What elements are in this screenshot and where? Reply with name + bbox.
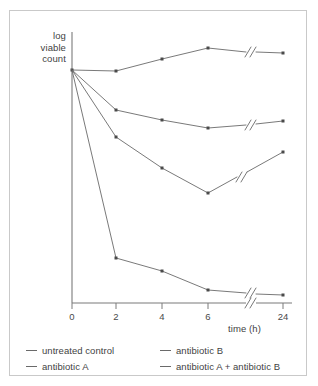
x-tick-label-0: 0 bbox=[69, 311, 74, 322]
series-antibiotic-a-plus-b bbox=[72, 70, 285, 195]
legend-label: antibiotic B bbox=[176, 345, 223, 356]
series-break-icon-antibiotic-a bbox=[245, 288, 256, 298]
legend-line-icon bbox=[26, 366, 37, 367]
chart-page: 0 2 4 6 24 bbox=[0, 0, 318, 386]
x-tick-label-2: 2 bbox=[113, 311, 118, 322]
legend-item-antibiotic-b: antibiotic B bbox=[160, 345, 298, 356]
chart-legend: untreated control antibiotic B antibioti… bbox=[26, 342, 298, 374]
y-axis-label-line-1: log bbox=[24, 30, 66, 42]
y-axis-label: log viable count bbox=[24, 30, 66, 65]
legend-item-untreated-control: untreated control bbox=[26, 345, 160, 356]
x-axis-break-icon bbox=[245, 298, 256, 308]
series-break-icon-antibiotic-a-plus-b bbox=[236, 172, 247, 182]
x-tick-label-4: 4 bbox=[159, 311, 164, 322]
legend-line-icon bbox=[160, 350, 171, 351]
x-axis-label: time (h) bbox=[228, 323, 261, 334]
series-break-icon-untreated-control bbox=[245, 47, 256, 57]
series-break-icon-antibiotic-b bbox=[245, 120, 256, 130]
series-untreated-control bbox=[71, 47, 285, 73]
y-axis-label-line-3: count bbox=[24, 53, 66, 65]
legend-item-antibiotic-a-plus-b: antibiotic A + antibiotic B bbox=[160, 361, 298, 372]
legend-label: antibiotic A bbox=[42, 361, 89, 372]
x-tick-label-24: 24 bbox=[278, 311, 289, 322]
legend-line-icon bbox=[160, 366, 171, 367]
y-axis-label-line-2: viable bbox=[24, 42, 66, 54]
series-antibiotic-b bbox=[72, 70, 285, 130]
legend-item-antibiotic-a: antibiotic A bbox=[26, 361, 160, 372]
x-tick-label-6: 6 bbox=[205, 311, 210, 322]
series-antibiotic-a bbox=[72, 70, 285, 298]
legend-label: untreated control bbox=[42, 345, 114, 356]
legend-line-icon bbox=[26, 350, 37, 351]
legend-label: antibiotic A + antibiotic B bbox=[176, 361, 280, 372]
